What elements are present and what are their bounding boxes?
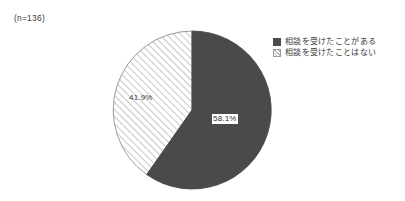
legend-item-no[interactable]: 相談を受けたことはない xyxy=(273,49,376,57)
sample-size-caption: (n=136) xyxy=(14,13,45,23)
pie-chart-figure: (n=136) 41.9% 58.1% 相談を受けたことがある 相談を受けたこと… xyxy=(0,0,405,201)
chart-legend: 相談を受けたことがある 相談を受けたことはない xyxy=(273,38,376,57)
legend-label-yes: 相談を受けたことがある xyxy=(285,38,376,46)
pie-svg xyxy=(112,30,272,190)
legend-label-no: 相談を受けたことはない xyxy=(285,49,376,57)
legend-swatch-hatched-light-icon xyxy=(273,49,281,57)
legend-swatch-solid-dark-icon xyxy=(273,38,281,46)
pie-chart-graphic xyxy=(112,30,272,190)
slice-value-label-yes: 58.1% xyxy=(212,114,238,124)
slice-value-label-no: 41.9% xyxy=(129,94,153,102)
legend-item-yes[interactable]: 相談を受けたことがある xyxy=(273,38,376,46)
